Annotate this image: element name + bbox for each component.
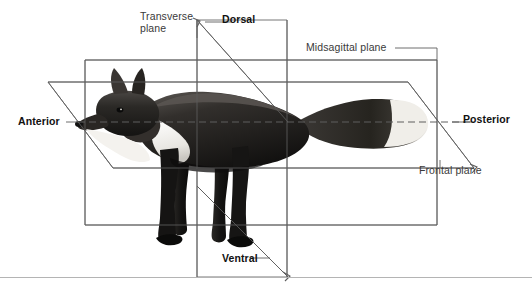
label-ventral: Ventral xyxy=(222,252,258,264)
anatomical-planes-figure: Transverse plane Dorsal Midsagittal plan… xyxy=(0,0,532,288)
fox-illustration xyxy=(75,68,428,247)
label-frontal-plane: Frontal plane xyxy=(419,164,482,176)
label-midsagittal-plane: Midsagittal plane xyxy=(306,41,387,53)
label-anterior: Anterior xyxy=(18,115,60,127)
label-dorsal: Dorsal xyxy=(222,13,255,25)
figure-bottom-rule xyxy=(0,277,532,278)
label-posterior: Posterior xyxy=(463,113,510,125)
transverse-corner-tick xyxy=(193,18,200,27)
planes-diagram xyxy=(0,0,532,288)
label-transverse-plane: Transverse plane xyxy=(140,10,193,34)
